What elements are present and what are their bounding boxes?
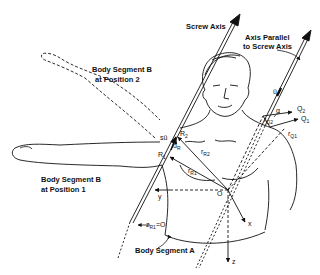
left-eye — [213, 85, 220, 86]
symbol-Q2: Q2 — [297, 105, 305, 114]
neck-left — [180, 110, 210, 128]
torso-bottom — [165, 232, 265, 243]
position-vectors — [170, 112, 298, 190]
screw-axis — [118, 14, 240, 258]
symbol-origin: O — [217, 190, 222, 197]
mouth — [218, 105, 232, 107]
symbol-rQ1: rQ1 — [288, 130, 297, 139]
right-eye — [230, 85, 238, 86]
arm-position-1 — [12, 142, 162, 167]
chest-line-1 — [185, 140, 236, 142]
parallel-axis-arrowhead — [302, 30, 311, 41]
symbol-zR1: zR1=O — [146, 221, 165, 230]
label-segment-b-pos1-1: Body Segment B — [41, 175, 101, 184]
hand-detail-1 — [20, 147, 32, 149]
label-segment-a: Body Segment A — [135, 246, 195, 255]
human-figure — [162, 53, 297, 244]
torso-right — [265, 180, 269, 230]
label-screw-axis: Screw Axis — [186, 22, 226, 31]
symbol-rR2: rR2 — [201, 148, 210, 157]
shoulder-right — [272, 128, 297, 210]
nose — [224, 88, 229, 99]
label-parallel-axis-1: Axis Parallel — [245, 33, 290, 42]
symbol-Q1: Q1 — [301, 115, 309, 124]
symbol-R2: R2 — [180, 130, 188, 139]
symbol-alpha: α — [276, 107, 280, 114]
symbol-u: û — [273, 88, 277, 95]
symbol-R1: R1 — [158, 151, 166, 160]
label-segment-b-pos2-2: at Position 2 — [95, 75, 140, 84]
symbol-dR: dR — [173, 142, 181, 151]
label-segment-b-pos2-1: Body Segment B — [92, 65, 152, 74]
label-segment-b-pos1-2: at Position 1 — [41, 185, 86, 194]
symbol-rR1: rR1 — [188, 167, 197, 176]
symbol-x-axis: x — [248, 220, 252, 227]
symbol-rQ2: rQ2 — [264, 116, 273, 125]
symbol-z-axis: z — [232, 258, 236, 265]
symbol-y-axis: y — [158, 193, 162, 200]
symbol-su: sû — [160, 134, 167, 141]
hair — [205, 55, 240, 75]
label-parallel-axis-2: to Screw Axis — [243, 42, 292, 51]
pec-right — [222, 168, 258, 180]
parallel-axis — [196, 30, 311, 268]
